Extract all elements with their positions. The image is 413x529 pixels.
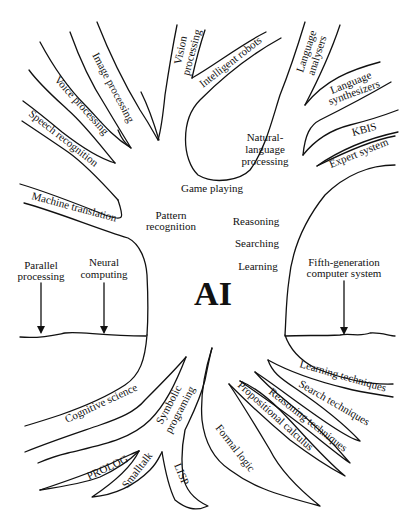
label-machine-translation: Machine translation: [30, 189, 118, 223]
label-nlp-3: processing: [241, 155, 289, 167]
label-pattern-2: recognition: [146, 220, 197, 232]
label-expert-system: Expert system: [327, 135, 390, 170]
arrow-fifth-generation: [340, 281, 348, 335]
branch-vision-left: [158, 25, 177, 140]
label-reasoning: Reasoning: [233, 215, 280, 227]
label-neural-2: computing: [80, 268, 128, 280]
label-game-playing: Game playing: [181, 182, 244, 194]
label-parallel-2: processing: [17, 270, 65, 282]
branch-expert-system-lower: [285, 165, 395, 335]
ai-tree-diagram: Image processing Voice processing Speech…: [0, 0, 413, 529]
label-nlp-2: language: [245, 143, 285, 155]
label-lisp: LISP: [172, 461, 192, 486]
label-searching: Searching: [235, 237, 279, 249]
label-learning: Learning: [238, 260, 278, 272]
label-intelligent-robots: Intelligent robots: [197, 34, 264, 90]
label-nlp-1: Natural-: [247, 131, 284, 143]
ground-left: [20, 333, 146, 338]
label-formal-logic: Formal logic: [213, 422, 257, 474]
arrow-parallel-processing: [37, 283, 45, 334]
label-kbis: KBIS: [350, 120, 377, 138]
label-fifth-gen-2: computer system: [307, 267, 382, 279]
label-neural-1: Neural: [89, 256, 119, 268]
ground-right: [285, 333, 395, 336]
label-cognitive-science: Cognitive science: [63, 381, 139, 425]
label-ai-title: AI: [194, 275, 232, 312]
arrow-neural-computing: [100, 283, 108, 334]
